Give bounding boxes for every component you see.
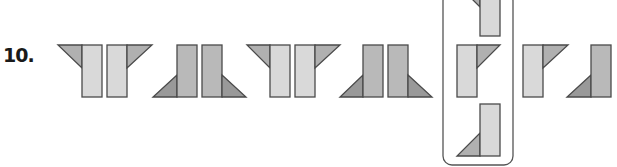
sequence-figure-1 xyxy=(58,45,152,97)
answer-options-box xyxy=(443,0,513,165)
sequence-figure-2 xyxy=(153,45,246,97)
sequence-figure-4 xyxy=(340,45,432,97)
answer-option-middle[interactable] xyxy=(457,45,500,97)
sequence-figure-6 xyxy=(523,45,568,97)
sequence-figure-7 xyxy=(567,45,611,97)
answer-option-bottom[interactable] xyxy=(457,104,500,156)
sequence-figure-3 xyxy=(247,45,340,97)
pattern-diagram xyxy=(0,0,617,167)
answer-option-top[interactable] xyxy=(472,0,500,36)
